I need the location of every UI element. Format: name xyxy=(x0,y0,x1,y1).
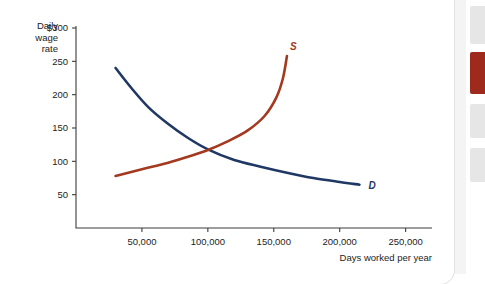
y-tick-label-200: 200 xyxy=(52,89,68,100)
y-tick-label-250: 250 xyxy=(52,56,68,67)
x-tick-label-200000: 200,000 xyxy=(323,236,357,247)
curve-label-d: D xyxy=(368,180,375,191)
side-panel-rail[interactable] xyxy=(466,0,483,274)
rail-block-gray-middle[interactable] xyxy=(470,104,485,138)
x-axis-title: Days worked per year xyxy=(340,252,432,263)
y-tick-label-300: $300 xyxy=(47,22,68,33)
rail-block-red[interactable] xyxy=(470,52,485,94)
y-tick-label-100: 100 xyxy=(52,156,68,167)
plot-area: 50100150200250$30050,000100,000150,00020… xyxy=(0,0,440,274)
supply-demand-chart: Daily wage rate 50100150200250$30050,000… xyxy=(0,0,440,274)
x-tick-label-250000: 250,000 xyxy=(388,236,422,247)
x-tick-label-150000: 150,000 xyxy=(257,236,291,247)
x-tick-label-100000: 100,000 xyxy=(191,236,225,247)
rail-block-gray-bottom[interactable] xyxy=(470,148,485,182)
x-tick-label-50000: 50,000 xyxy=(127,236,156,247)
y-tick-label-50: 50 xyxy=(57,189,68,200)
y-tick-label-150: 150 xyxy=(52,122,68,133)
rail-block-gray-top[interactable] xyxy=(470,6,485,44)
curve-label-s: S xyxy=(290,41,297,52)
curve-supply xyxy=(116,56,287,176)
